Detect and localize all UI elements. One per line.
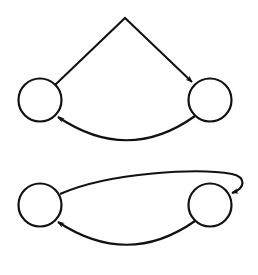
- top-graph: [19, 18, 232, 140]
- edge-d-to-c: [58, 221, 195, 245]
- node-b: [189, 79, 232, 122]
- node-c: [19, 184, 62, 227]
- diagram-canvas: [0, 0, 258, 275]
- edge-b-to-a: [58, 116, 195, 140]
- edge-a-to-b: [55, 18, 192, 85]
- node-d: [189, 184, 232, 227]
- bottom-graph: [19, 171, 243, 244]
- edge-c-to-d: [60, 171, 243, 194]
